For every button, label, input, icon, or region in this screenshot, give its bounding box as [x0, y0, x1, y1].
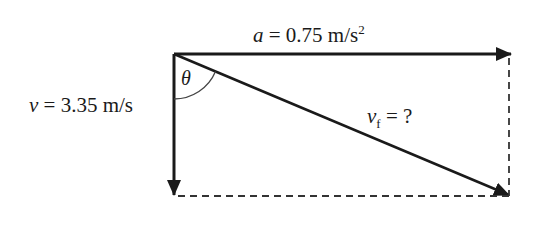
velocity-symbol: v — [29, 93, 38, 117]
angle-theta-label: θ — [181, 68, 191, 88]
acceleration-symbol: a — [253, 23, 264, 47]
final-velocity-symbol: v — [367, 104, 376, 128]
final-velocity-vector — [174, 54, 509, 195]
velocity-value: = 3.35 m/s — [38, 93, 133, 117]
final-velocity-label: vf = ? — [367, 106, 412, 127]
final-velocity-value: = ? — [381, 104, 413, 128]
acceleration-value: = 0.75 m/s — [264, 23, 359, 47]
acceleration-label: a = 0.75 m/s2 — [253, 25, 365, 46]
acceleration-exponent: 2 — [358, 22, 365, 37]
velocity-label: v = 3.35 m/s — [29, 95, 133, 116]
